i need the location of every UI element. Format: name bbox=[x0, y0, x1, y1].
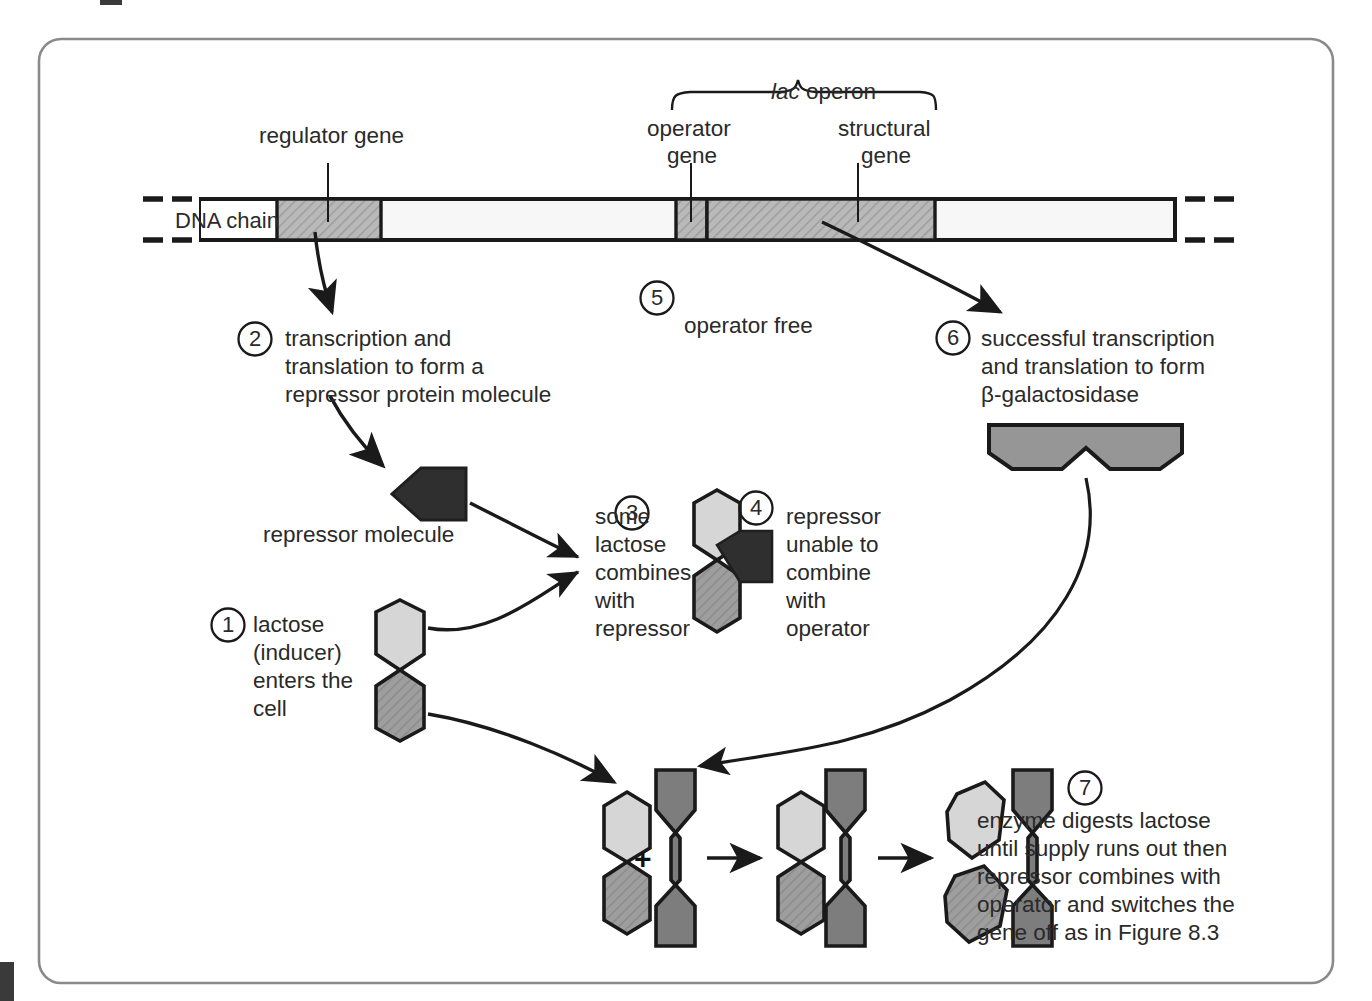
step-7-line-5: gene off as in Figure 8.3 bbox=[977, 920, 1219, 946]
label-regulator-gene: regulator gene bbox=[259, 123, 404, 149]
step-3-line-3: combines bbox=[595, 560, 691, 586]
reaction-lactose-upper-b bbox=[778, 792, 824, 862]
reaction-lactose-lower-b bbox=[778, 862, 824, 934]
reaction-enzyme-b bbox=[826, 770, 865, 946]
lactose-upper-hexagon bbox=[376, 600, 424, 670]
reaction-group-complex bbox=[778, 770, 865, 946]
step-number-7: 7 bbox=[1079, 775, 1091, 801]
arrow-enzyme-to-bottom-reaction bbox=[700, 478, 1090, 766]
arrow-repressor-to-step3 bbox=[470, 503, 578, 557]
step-3-line-1: some bbox=[595, 504, 650, 530]
step-7-line-2: until supply runs out then bbox=[977, 836, 1227, 862]
step-1-line-1: lactose bbox=[253, 612, 324, 638]
step-3-line-2: lactose bbox=[595, 532, 666, 558]
step-6-line-3: β-galactosidase bbox=[981, 382, 1139, 408]
step-4-line-1: repressor bbox=[786, 504, 881, 530]
step-number-1: 1 bbox=[222, 612, 234, 638]
step-7-line-4: operator and switches the bbox=[977, 892, 1235, 918]
step-5-line-1: operator free bbox=[684, 313, 813, 339]
step-1-line-3: enters the bbox=[253, 668, 353, 694]
step-number-5: 5 bbox=[651, 285, 663, 311]
step-7-line-1: enzyme digests lactose bbox=[977, 808, 1211, 834]
reaction-plus-sign: + bbox=[634, 841, 652, 876]
step-2-line-1: transcription and bbox=[285, 326, 451, 352]
enzyme-beta-galactosidase-shape bbox=[989, 425, 1182, 469]
step-3-line-4: with bbox=[595, 588, 635, 614]
step-1-line-2: (inducer) bbox=[253, 640, 342, 666]
lactose-lower-hexagon bbox=[376, 670, 424, 741]
label-repressor-molecule: repressor molecule bbox=[263, 522, 454, 548]
step-4-line-4: with bbox=[786, 588, 826, 614]
step-4-line-2: unable to bbox=[786, 532, 879, 558]
step-number-4: 4 bbox=[750, 495, 762, 521]
label-structural-gene-line2: gene bbox=[861, 143, 911, 169]
step-6-line-2: and translation to form bbox=[981, 354, 1205, 380]
step-1-line-4: cell bbox=[253, 696, 287, 722]
lac-operon-title-italic: lac bbox=[771, 79, 800, 104]
lac-operon-title-rest: operon bbox=[800, 79, 876, 104]
label-operator-gene-line2: gene bbox=[667, 143, 717, 169]
step-number-6: 6 bbox=[947, 325, 959, 351]
label-dna-chain: DNA chain bbox=[175, 208, 279, 234]
step-2-line-2: translation to form a bbox=[285, 354, 484, 380]
step-3-line-5: repressor bbox=[595, 616, 690, 642]
arrow-regulator-to-step2 bbox=[315, 232, 332, 312]
arrow-lactose-to-step3 bbox=[428, 572, 578, 630]
label-structural-gene-line1: structural bbox=[838, 116, 931, 142]
step-2-line-3: repressor protein molecule bbox=[285, 382, 551, 408]
reaction-enzyme-a bbox=[656, 770, 695, 946]
step-4-line-3: combine bbox=[786, 560, 871, 586]
arrow-lactose-to-bottom-reaction bbox=[428, 714, 614, 782]
step-number-2: 2 bbox=[249, 326, 261, 352]
step-6-line-1: successful transcription bbox=[981, 326, 1215, 352]
repressor-molecule-shape bbox=[392, 468, 466, 520]
figure-canvas: lac operon regulator gene operator gene … bbox=[0, 0, 1372, 1001]
step-7-line-3: repressor combines with bbox=[977, 864, 1221, 890]
dna-region-structural bbox=[707, 199, 935, 240]
label-operator-gene-line1: operator bbox=[647, 116, 731, 142]
dna-dashed-end-right bbox=[1185, 199, 1234, 240]
step-4-line-5: operator bbox=[786, 616, 870, 642]
lactose-molecule-step1 bbox=[376, 600, 424, 741]
